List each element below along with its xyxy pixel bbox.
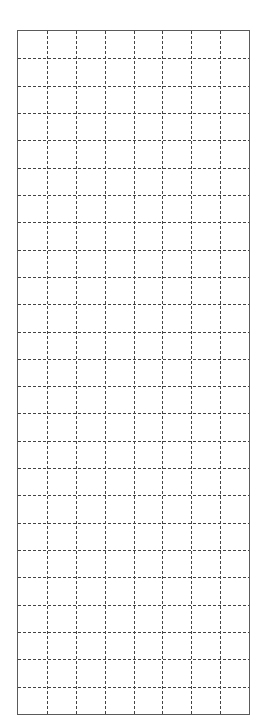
grid-lines — [18, 31, 249, 714]
grid-sheet — [17, 30, 250, 715]
